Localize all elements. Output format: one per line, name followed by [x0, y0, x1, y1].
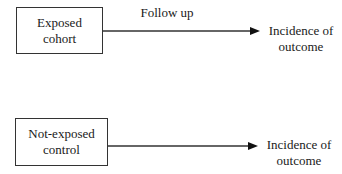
control-line2: control [28, 142, 94, 158]
follow-up-label: Follow up [140, 5, 194, 21]
top-outcome-label: Incidence of outcome [260, 23, 342, 55]
top-outcome-line2: outcome [260, 39, 342, 55]
bottom-outcome-label: Incidence of outcome [258, 137, 340, 169]
exposed-cohort-line2: cohort [37, 31, 82, 47]
bottom-outcome-line2: outcome [258, 153, 340, 169]
exposed-cohort-box: Exposed cohort [16, 7, 103, 54]
bottom-outcome-line1: Incidence of [258, 137, 340, 153]
top-outcome-line1: Incidence of [260, 23, 342, 39]
top-arrow [103, 27, 260, 35]
bottom-arrow [108, 142, 258, 150]
exposed-cohort-line1: Exposed [37, 15, 82, 31]
not-exposed-control-box: Not-exposed control [15, 118, 108, 166]
control-line1: Not-exposed [28, 126, 94, 142]
